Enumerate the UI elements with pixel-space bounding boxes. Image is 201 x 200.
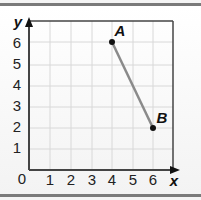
point-b-label: B [157, 109, 168, 126]
y-tick-2: 2 [13, 118, 21, 135]
origin-label: 0 [18, 170, 26, 187]
grid-lines [29, 21, 173, 170]
y-axis-arrow-icon [25, 17, 33, 27]
x-axis-label: x [169, 172, 179, 189]
y-tick-4: 4 [13, 76, 21, 93]
y-tick-3: 3 [13, 97, 21, 114]
point-a [109, 39, 115, 45]
coordinate-plane: 6 5 4 3 2 1 0 1 2 3 4 5 6 y x A B [0, 0, 201, 200]
x-tick-2: 2 [67, 171, 75, 188]
x-tick-6: 6 [149, 171, 157, 188]
x-tick-4: 4 [108, 171, 116, 188]
y-axis-label: y [13, 13, 23, 30]
y-tick-1: 1 [13, 139, 21, 156]
x-tick-1: 1 [46, 171, 54, 188]
point-a-label: A [114, 22, 126, 39]
y-tick-6: 6 [13, 34, 21, 51]
plot-frame [29, 21, 173, 170]
x-tick-3: 3 [88, 171, 96, 188]
y-axis [25, 17, 33, 170]
point-b [150, 125, 156, 131]
x-tick-5: 5 [129, 171, 137, 188]
y-tick-5: 5 [13, 55, 21, 72]
